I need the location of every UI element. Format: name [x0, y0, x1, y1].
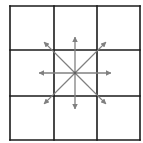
arrow-south-west-icon — [44, 73, 75, 104]
direction-grid-diagram — [0, 0, 143, 143]
direction-arrows — [39, 37, 111, 109]
arrow-north-west-icon — [44, 42, 75, 73]
center-point — [74, 72, 77, 75]
arrow-north-east-icon — [75, 42, 106, 73]
arrow-south-east-icon — [75, 73, 106, 104]
